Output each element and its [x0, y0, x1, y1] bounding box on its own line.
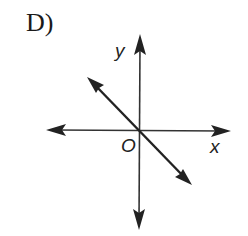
origin-label: O [121, 135, 136, 156]
y-axis-label: y [113, 40, 126, 61]
coordinate-graph: y x O [0, 0, 248, 236]
x-axis-label: x [209, 136, 221, 157]
